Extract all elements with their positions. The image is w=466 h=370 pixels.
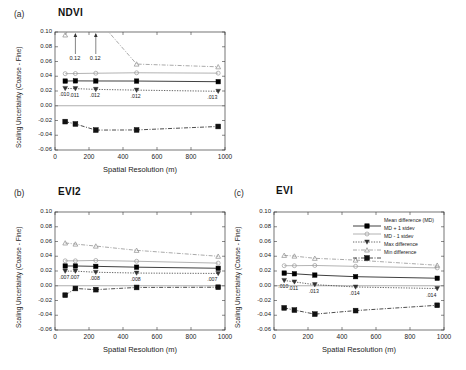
legend-marker-icon-0	[352, 216, 382, 224]
legend-key-4	[352, 254, 382, 262]
svg-text:.013: .013	[309, 288, 319, 294]
legend-item-1[interactable]: MD + 1 stdev	[352, 224, 444, 232]
legend-marker-icon-3	[352, 240, 382, 248]
plot-area-2: .010.011.013.014.014	[0, 0, 466, 370]
legend-item-2[interactable]: MD - 1 stdev	[352, 232, 444, 240]
legend-marker-icon-2	[352, 232, 382, 240]
legend: Mean difference (MD) MD + 1 stdev MD - 1…	[352, 216, 444, 256]
legend-label-1: MD + 1 stdev	[382, 225, 415, 231]
legend-item-0[interactable]: Mean difference (MD)	[352, 216, 444, 224]
svg-text:.011: .011	[288, 285, 298, 291]
svg-text:.014: .014	[350, 290, 360, 296]
legend-label-2: MD - 1 stdev	[382, 233, 413, 239]
legend-item-4[interactable]: Min difference	[352, 248, 444, 256]
legend-item-3[interactable]: Max difference	[352, 240, 444, 248]
legend-label-3: Max difference	[382, 241, 418, 247]
svg-text:.010: .010	[278, 283, 288, 289]
legend-marker-icon-4	[352, 248, 382, 256]
legend-label-4: Min difference	[382, 249, 417, 255]
legend-marker-icon-1	[352, 224, 382, 232]
svg-text:.014: .014	[426, 292, 436, 298]
legend-label-0: Mean difference (MD)	[382, 217, 434, 223]
